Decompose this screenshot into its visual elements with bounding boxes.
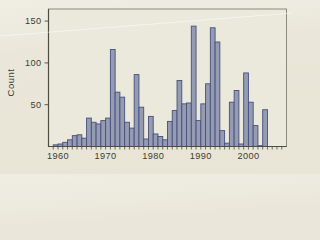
x-tick-label: 1970 (95, 151, 117, 161)
bar-1970 (106, 118, 111, 146)
bar-1972 (115, 92, 120, 146)
x-tick-label: 1990 (190, 151, 212, 161)
bar-2001 (253, 126, 258, 147)
histogram-figure: 1960197019801990200050100150 Count (0, 0, 293, 174)
bar-1974 (125, 122, 130, 146)
bar-1983 (168, 121, 173, 146)
bar-1961 (63, 142, 68, 146)
bar-1976 (134, 75, 139, 147)
bar-1962 (68, 140, 73, 147)
bar-1997 (234, 90, 239, 146)
y-tick-label: 50 (30, 100, 41, 110)
bar-1988 (191, 26, 196, 146)
x-tick-label: 1980 (142, 151, 164, 161)
bar-1975 (129, 128, 134, 146)
bar-1981 (158, 136, 163, 146)
bar-1973 (120, 97, 125, 146)
bar-1967 (91, 122, 96, 146)
y-axis-title: Count (5, 63, 16, 103)
bar-2003 (263, 110, 268, 147)
bar-1978 (144, 139, 149, 147)
bar-1979 (148, 116, 153, 146)
y-tick-label: 100 (25, 58, 42, 68)
bar-1999 (244, 73, 249, 147)
bar-1982 (163, 140, 168, 147)
bar-1986 (182, 104, 187, 147)
x-tick-label: 1960 (47, 151, 69, 161)
x-tick-label: 2000 (237, 151, 259, 161)
bar-1980 (153, 134, 158, 147)
bar-1963 (72, 136, 77, 147)
bar-1966 (87, 118, 92, 146)
bar-1977 (139, 107, 144, 146)
bar-1984 (172, 111, 177, 147)
bar-1968 (96, 124, 101, 147)
bar-1969 (101, 121, 106, 147)
bar-1985 (177, 80, 182, 146)
bar-1971 (110, 50, 115, 147)
bar-1989 (196, 121, 201, 147)
bar-1964 (77, 135, 82, 147)
bar-1987 (187, 103, 192, 146)
bar-1993 (215, 42, 220, 147)
bar-1996 (229, 102, 234, 146)
histogram-chart: 1960197019801990200050100150 (0, 0, 293, 174)
y-tick-label: 150 (25, 16, 42, 26)
bar-1965 (82, 138, 87, 146)
bar-1990 (201, 104, 206, 147)
bar-1994 (220, 131, 225, 147)
bar-1991 (206, 84, 211, 147)
bar-2000 (248, 102, 253, 146)
bar-1992 (210, 28, 215, 147)
